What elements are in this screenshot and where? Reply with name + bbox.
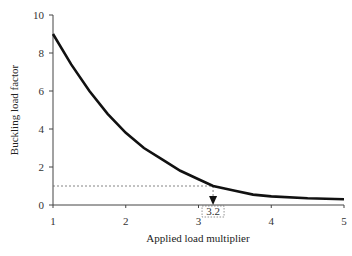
x-tick-label: 2 [123,215,129,227]
y-tick-label: 6 [39,85,45,97]
arrow-down-icon [209,196,217,205]
annotation-label: 3.2 [206,205,220,217]
y-tick-label: 8 [39,47,45,59]
y-axis-label: Buckling load factor [8,64,20,155]
x-axis-label: Applied load multiplier [146,232,250,244]
x-tick-label: 4 [269,215,275,227]
y-tick-label: 0 [39,199,45,211]
x-tick-label: 3 [196,215,202,227]
y-tick-label: 4 [39,123,45,135]
y-tick-label: 10 [33,9,45,21]
x-tick-label: 5 [341,215,347,227]
data-curve [53,34,344,199]
y-tick-label: 2 [39,161,45,173]
chart: 0246810 12345 3.2 Applied load multiplie… [0,0,352,256]
x-tick-label: 1 [50,215,56,227]
